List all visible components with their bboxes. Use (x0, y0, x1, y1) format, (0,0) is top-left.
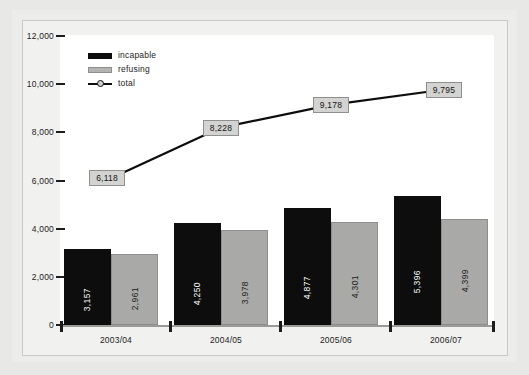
x-axis-separator-4 (492, 321, 495, 332)
bar-value-refusing-2005-06: 4,301 (350, 275, 360, 298)
legend-swatch-icon-incapable (88, 53, 112, 59)
legend-label-total: total (118, 78, 135, 88)
bar-incapable-2004-05: 4,250 (174, 223, 221, 325)
bar-refusing-2005-06: 4,301 (331, 222, 378, 325)
y-tick-label-10000: 10,000 (8, 79, 54, 89)
x-axis-separator-2 (279, 321, 282, 332)
bar-refusing-2004-05: 3,978 (221, 230, 268, 326)
y-tick-mark-6000 (56, 180, 65, 182)
total-value-2006-07: 9,795 (426, 82, 462, 98)
x-axis-label-2003-04: 2003/04 (71, 335, 161, 345)
bar-incapable-2006-07: 5,396 (394, 196, 441, 326)
y-tick-mark-4000 (56, 228, 65, 230)
bar-value-incapable-2003-04: 3,157 (82, 288, 92, 311)
y-tick-label-4000: 4,000 (8, 224, 54, 234)
bar-value-incapable-2006-07: 5,396 (412, 270, 422, 293)
legend-label-refusing: refusing (118, 64, 150, 74)
y-tick-mark-10000 (56, 83, 65, 85)
y-tick-label-8000: 8,000 (8, 127, 54, 137)
bar-incapable-2003-04: 3,157 (64, 249, 111, 325)
bar-value-refusing-2004-05: 3,978 (240, 281, 250, 304)
x-axis-line (60, 325, 494, 327)
bar-refusing-2003-04: 2,961 (111, 254, 158, 325)
x-axis-label-2006-07: 2006/07 (401, 335, 491, 345)
total-value-2003-04: 6,118 (89, 170, 125, 186)
y-tick-mark-12000 (56, 35, 65, 37)
x-axis-separator-1 (169, 321, 172, 332)
y-tick-mark-8000 (56, 131, 65, 133)
chart-screenshot: 12,000 10,000 8,000 6,000 4,000 2,000 0 … (0, 0, 529, 375)
bar-value-refusing-2003-04: 2,961 (130, 287, 140, 310)
y-tick-label-2000: 2,000 (8, 272, 54, 282)
bar-incapable-2005-06: 4,877 (284, 208, 331, 325)
y-tick-label-6000: 6,000 (8, 176, 54, 186)
legend-label-incapable: incapable (118, 50, 156, 60)
x-axis-separator-0 (60, 321, 63, 332)
y-tick-label-0: 0 (8, 320, 54, 330)
bar-value-incapable-2005-06: 4,877 (302, 276, 312, 299)
bar-refusing-2006-07: 4,399 (441, 219, 488, 325)
bar-value-refusing-2006-07: 4,399 (460, 269, 470, 292)
x-axis-separator-3 (389, 321, 392, 332)
total-value-2004-05: 8,228 (203, 120, 239, 136)
y-tick-label-12000: 12,000 (8, 31, 54, 41)
x-axis-label-2005-06: 2005/06 (291, 335, 381, 345)
x-axis-label-2004-05: 2004/05 (181, 335, 271, 345)
total-value-2005-06: 9,178 (313, 97, 349, 113)
legend-marker-icon-total (97, 80, 104, 87)
legend-swatch-icon-refusing (88, 67, 112, 73)
bar-value-incapable-2004-05: 4,250 (192, 282, 202, 305)
